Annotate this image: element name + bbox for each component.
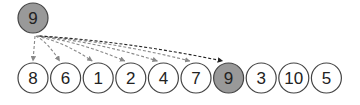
array-node-label: 2 [126,69,135,88]
array-node: 1 [83,63,113,93]
comparison-arrow [36,36,60,61]
array-node-label: 8 [28,69,37,88]
array-node-label: 9 [224,69,233,88]
array-node-label: 4 [159,69,168,88]
array-node: 2 [116,63,146,93]
array-node-label: 7 [191,69,200,88]
array-node-label: 5 [322,69,331,88]
array-node: 9 [214,63,244,93]
search-key-node: 9 [18,3,48,33]
array-node: 5 [311,63,341,93]
array-node: 10 [279,63,309,93]
match-arrow [40,36,223,61]
comparison-arrow [38,36,157,61]
array-node-label: 10 [284,69,303,88]
comparison-arrow [33,36,35,61]
array-node: 4 [148,63,178,93]
comparison-arrows [33,36,223,61]
array-node-label: 1 [93,69,102,88]
array-node-label: 3 [256,69,265,88]
array-node: 7 [181,63,211,93]
array-node-label: 6 [61,69,70,88]
search-key-label: 9 [28,9,37,28]
linear-search-diagram: 9 86124793105 [0,0,360,105]
array-node: 8 [18,63,48,93]
array-node: 3 [246,63,276,93]
array-row: 86124793105 [18,63,341,93]
array-node: 6 [51,63,81,93]
